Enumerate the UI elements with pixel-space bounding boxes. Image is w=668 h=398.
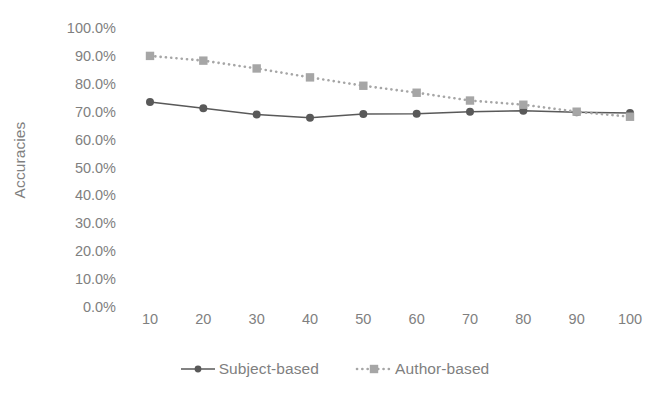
data-point-marker <box>466 96 474 104</box>
y-axis-tick-label: 50.0% <box>75 160 116 175</box>
data-point-marker <box>466 108 474 116</box>
data-point-marker <box>199 104 207 112</box>
legend-marker-icon <box>179 362 217 376</box>
data-point-marker <box>359 110 367 118</box>
data-point-marker <box>413 110 421 118</box>
y-axis-tick-label: 0.0% <box>83 300 116 315</box>
plot-svg <box>124 20 644 308</box>
x-axis-tick-label: 60 <box>409 311 425 328</box>
data-point-marker <box>306 73 314 81</box>
x-axis-tick-label: 20 <box>195 311 211 328</box>
plot-area <box>124 20 644 308</box>
x-axis-tick-labels: 102030405060708090100 <box>124 311 644 337</box>
y-axis-title: Accuracies <box>0 0 40 320</box>
y-axis-tick-label: 60.0% <box>75 132 116 147</box>
y-axis-tick-label: 30.0% <box>75 216 116 231</box>
data-point-marker <box>146 52 154 60</box>
x-axis-tick-label: 90 <box>569 311 585 328</box>
series-line <box>150 56 630 117</box>
y-axis-tick-label: 100.0% <box>67 21 116 36</box>
x-axis-tick-label: 40 <box>302 311 318 328</box>
line-chart: Accuracies 100.0%90.0%80.0%70.0%60.0%50.… <box>0 0 668 398</box>
y-axis-title-label: Accuracies <box>11 122 29 199</box>
legend-label: Author-based <box>395 360 489 378</box>
data-point-marker <box>306 114 314 122</box>
x-axis-tick-label: 70 <box>462 311 478 328</box>
legend-entry-subject-based[interactable]: Subject-based <box>179 360 319 378</box>
y-axis-tick-label: 90.0% <box>75 49 116 64</box>
legend-label: Subject-based <box>219 360 319 378</box>
legend-marker-icon <box>355 362 393 376</box>
data-point-marker <box>199 56 207 64</box>
x-axis-tick-label: 80 <box>515 311 531 328</box>
data-point-marker <box>146 98 154 106</box>
y-axis-tick-label: 70.0% <box>75 104 116 119</box>
x-axis-tick-label: 30 <box>249 311 265 328</box>
series-line <box>150 102 630 118</box>
y-axis-tick-label: 40.0% <box>75 188 116 203</box>
data-point-marker <box>252 64 260 72</box>
data-point-marker <box>359 82 367 90</box>
data-point-marker <box>572 108 580 116</box>
data-point-marker <box>412 89 420 97</box>
y-axis-tick-label: 80.0% <box>75 77 116 92</box>
x-axis-tick-label: 50 <box>355 311 371 328</box>
y-axis-tick-labels: 100.0%90.0%80.0%70.0%60.0%50.0%40.0%30.0… <box>40 0 120 320</box>
data-point-marker <box>253 110 261 118</box>
y-axis-tick-label: 10.0% <box>75 272 116 287</box>
x-axis-tick-label: 10 <box>142 311 158 328</box>
data-point-marker <box>626 113 634 121</box>
data-point-marker <box>519 101 527 109</box>
chart-legend: Subject-basedAuthor-based <box>0 352 668 386</box>
y-axis-tick-label: 20.0% <box>75 244 116 259</box>
x-axis-tick-label: 100 <box>618 311 642 328</box>
legend-entry-author-based[interactable]: Author-based <box>355 360 489 378</box>
